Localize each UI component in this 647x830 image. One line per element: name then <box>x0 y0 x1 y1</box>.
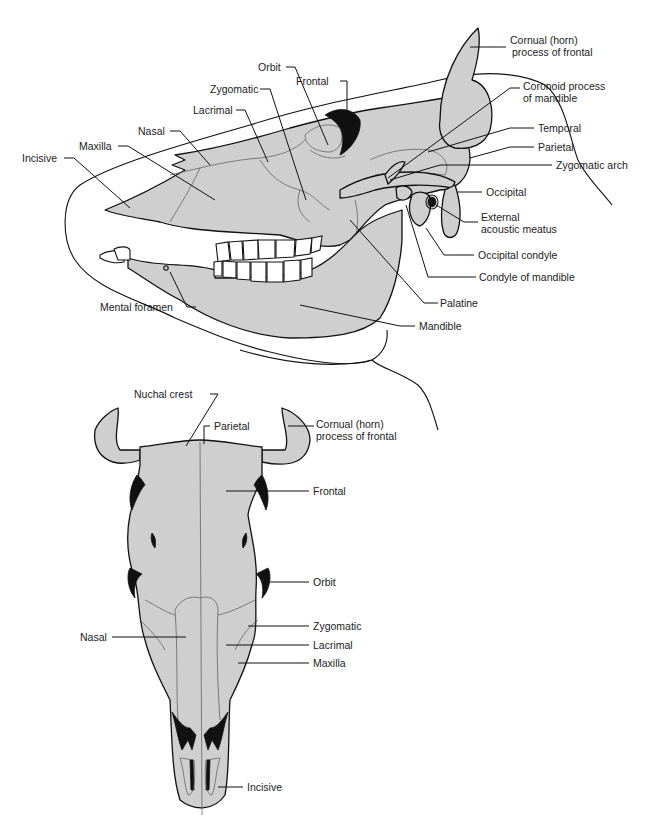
label-lateral-coronoid-2: of mandible <box>523 92 577 104</box>
label-dorsal-frontal: Frontal <box>313 485 346 497</box>
label-lateral-lacrimal: Lacrimal <box>193 104 233 116</box>
label-lateral-coronoid-1: Coronoid process <box>523 80 605 92</box>
label-dorsal-parietal: Parietal <box>214 420 250 432</box>
label-lateral-occipital-condyle: Occipital condyle <box>478 249 557 261</box>
label-dorsal-cornual-2: process of frontal <box>316 430 397 442</box>
label-dorsal-maxilla: Maxilla <box>313 657 346 669</box>
label-lateral-mandible: Mandible <box>419 320 462 332</box>
label-lateral-cornual-2: process of frontal <box>512 46 593 58</box>
label-dorsal-nuchal-crest: Nuchal crest <box>134 388 192 400</box>
label-lateral-palatine: Palatine <box>440 297 478 309</box>
label-lateral-maxilla: Maxilla <box>79 140 112 152</box>
label-dorsal-incisive: Incisive <box>247 781 282 793</box>
label-lateral-zygomatic: Zygomatic <box>210 83 258 95</box>
label-lateral-incisive: Incisive <box>22 152 57 164</box>
label-lateral-parietal: Parietal <box>538 141 574 153</box>
label-lateral-mental-foramen: Mental foramen <box>100 301 173 313</box>
label-lateral-temporal: Temporal <box>538 122 581 134</box>
label-lateral-occipital: Occipital <box>486 186 526 198</box>
label-dorsal-nasal: Nasal <box>80 631 107 643</box>
label-dorsal-zygomatic: Zygomatic <box>313 620 361 632</box>
label-lateral-condyle-mandible: Condyle of mandible <box>479 271 575 283</box>
label-dorsal-orbit: Orbit <box>313 576 336 588</box>
label-dorsal-cornual-1: Cornual (horn) <box>316 418 384 430</box>
dorsal-skull <box>95 408 310 815</box>
label-lateral-orbit: Orbit <box>258 61 281 73</box>
neck-outline <box>240 350 372 364</box>
label-lateral-ext-acoustic-1: External <box>481 211 520 223</box>
label-lateral-nasal: Nasal <box>138 125 165 137</box>
label-lateral-zygomatic-arch: Zygomatic arch <box>556 159 628 171</box>
label-lateral-cornual-1: Cornual (horn) <box>510 34 578 46</box>
label-lateral-frontal: Frontal <box>296 75 329 87</box>
label-lateral-ext-acoustic-2: acoustic meatus <box>481 223 557 235</box>
label-dorsal-lacrimal: Lacrimal <box>313 639 353 651</box>
upper-teeth <box>216 236 322 262</box>
